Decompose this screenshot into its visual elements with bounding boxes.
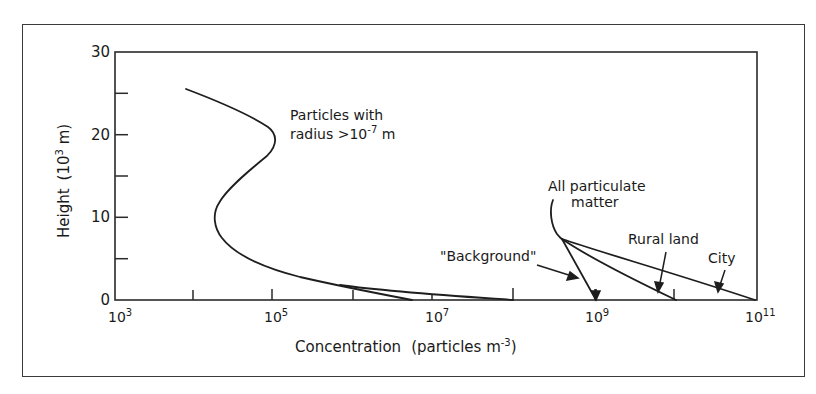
annotation-rural: Rural land — [628, 231, 699, 247]
y-axis-label: Height(103 m) — [54, 124, 73, 238]
xtick-1e11: 1011 — [745, 307, 776, 325]
xtick-1e7: 107 — [425, 307, 449, 325]
ytick-10: 10 — [91, 208, 110, 226]
annotation-particles-line1: Particles with — [290, 107, 383, 123]
annotation-arrows — [537, 252, 725, 300]
annotations: Particles with radius >10-7 m All partic… — [290, 107, 735, 266]
curves — [186, 89, 755, 300]
xtick-1e9: 109 — [585, 307, 609, 325]
arrow-background-foot-head — [592, 291, 600, 300]
annotation-all-line2: matter — [571, 194, 619, 210]
y-ticks — [115, 93, 128, 258]
curve-all-particulate — [551, 200, 564, 241]
y-tick-labels: 30 20 10 0 — [91, 43, 110, 309]
arrow-background-head — [567, 272, 578, 280]
arrow-city-head — [715, 282, 723, 292]
annotation-background: "Background" — [440, 248, 536, 264]
annotation-all-line1: All particulate — [548, 178, 646, 194]
x-axis-label: Concentration(particles m-3) — [295, 337, 517, 356]
ytick-20: 20 — [91, 126, 110, 144]
x-tick-labels: 103 105 107 109 1011 — [108, 307, 776, 325]
curve-particles-radius-branch — [340, 285, 513, 300]
xtick-1e3: 103 — [108, 307, 132, 325]
annotation-city: City — [708, 250, 735, 266]
axes — [115, 52, 757, 300]
annotation-particles-line2: radius >10-7 m — [290, 124, 395, 142]
ytick-30: 30 — [91, 43, 110, 61]
plot-area — [115, 52, 757, 300]
xtick-1e5: 105 — [264, 307, 288, 325]
ytick-0: 0 — [100, 291, 110, 309]
chart: 30 20 10 0 103 105 107 109 1011 Concentr… — [0, 0, 816, 394]
